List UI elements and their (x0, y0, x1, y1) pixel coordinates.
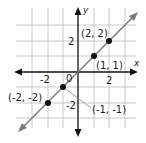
x-axis-label: x (133, 58, 140, 68)
y-axis-label: y (82, 5, 89, 15)
tick-x-neg2: -2 (40, 74, 50, 85)
label-point-2-2: (2, 2) (81, 28, 108, 39)
y-axis-arrow-down-icon (75, 129, 82, 137)
tick-x-2: 2 (106, 75, 112, 86)
point-n1-n1 (60, 84, 66, 90)
y-axis-arrow-up-icon (75, 7, 82, 15)
x-axis-arrow-right-icon (130, 69, 138, 76)
origin-label: 0 (66, 73, 72, 84)
label-point-n2-n2: (-2, -2) (8, 92, 42, 103)
chart-svg: x y 0 -2 2 2 -2 (2, 2) (1, 1) (-2, -2) (… (0, 0, 146, 143)
point-n2-n2 (45, 100, 51, 106)
point-1-1 (91, 53, 97, 59)
tick-y-neg2: -2 (66, 100, 76, 111)
label-point-1-1: (1, 1) (96, 60, 123, 71)
x-axis-arrow-left-icon (14, 69, 22, 76)
tick-y-2: 2 (68, 36, 74, 47)
coordinate-plane-chart: x y 0 -2 2 2 -2 (2, 2) (1, 1) (-2, -2) (… (0, 0, 146, 143)
label-point-n1-n1: (-1, -1) (92, 104, 126, 115)
